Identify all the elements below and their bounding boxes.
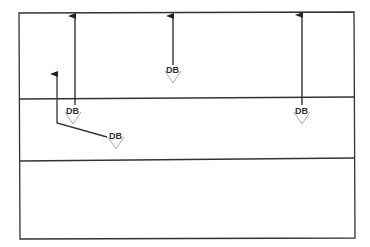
- db-label: DB: [109, 131, 122, 141]
- db-marker-3: DB: [165, 65, 181, 83]
- db-label: DB: [166, 65, 179, 75]
- db-marker-1: DB: [65, 106, 81, 124]
- db-marker-2: DB: [108, 131, 124, 149]
- lane-divider-2: [20, 158, 354, 161]
- connector-db-2: [57, 74, 107, 137]
- db-label: DB: [295, 106, 308, 116]
- db-label: DB: [66, 106, 79, 116]
- db-marker-4: DB: [294, 106, 310, 124]
- diagram-frame: [19, 12, 355, 239]
- diagram-canvas: DB DB DB DB: [0, 0, 370, 247]
- lane-divider-1: [19, 97, 354, 99]
